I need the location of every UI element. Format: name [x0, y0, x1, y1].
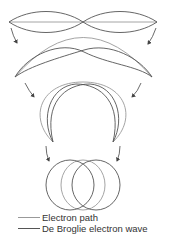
arrow-down-left-1 [11, 28, 17, 43]
arrow-down-left-2 [25, 83, 34, 97]
electron-path-horseshoe [40, 82, 126, 142]
legend-swatch-electron-path [18, 217, 40, 218]
de-broglie-wave-b [51, 84, 119, 142]
de-broglie-wave-a [15, 48, 152, 77]
stage-1-flat [9, 12, 157, 33]
arrow-down-left-3 [46, 146, 49, 161]
legend-label: Electron path [42, 212, 98, 223]
stage-4-circle [46, 160, 120, 210]
arrow-down-right-2 [132, 83, 141, 97]
arrow-down-right-1 [148, 28, 156, 44]
legend-item-electron-path: Electron path [18, 212, 148, 223]
de-broglie-wave-circle-b [72, 160, 120, 210]
legend-item-de-broglie-wave: De Broglie electron wave [18, 223, 148, 234]
de-broglie-wave-a [47, 84, 115, 142]
de-broglie-wave-b [15, 48, 152, 77]
legend-swatch-de-broglie-wave [18, 228, 40, 229]
stage-3-horseshoe [40, 82, 126, 142]
arrow-down-right-3 [117, 146, 120, 161]
legend: Electron path De Broglie electron wave [18, 212, 148, 234]
de-broglie-wave-circle-a [46, 160, 94, 210]
legend-label: De Broglie electron wave [42, 223, 148, 234]
bohr-orbit-diagram [0, 0, 170, 236]
stage-2-arc [15, 38, 152, 78]
electron-path-circle [61, 160, 105, 210]
